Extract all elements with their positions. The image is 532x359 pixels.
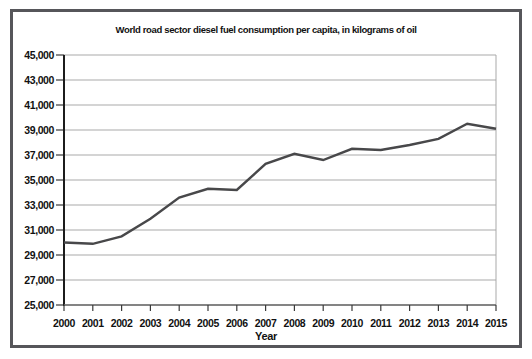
y-tick-label: 27,000 <box>24 274 54 286</box>
chart-canvas: World road sector diesel fuel consumptio… <box>0 0 532 359</box>
x-axis-title: Year <box>13 330 519 342</box>
y-tick-label: 25,000 <box>24 299 54 311</box>
x-tick-label: 2010 <box>341 317 363 329</box>
x-tick-label: 2006 <box>226 317 248 329</box>
x-tick-label: 2009 <box>312 317 334 329</box>
y-tick-label: 29,000 <box>24 249 54 261</box>
x-tick-label: 2011 <box>370 317 392 329</box>
line-chart: 25,00027,00029,00031,00033,00035,00037,0… <box>0 0 532 359</box>
x-tick-label: 2004 <box>168 317 190 329</box>
y-tick-label: 39,000 <box>24 124 54 136</box>
x-tick-label: 2013 <box>428 317 450 329</box>
x-tick-label: 2007 <box>255 317 277 329</box>
x-tick-label: 2002 <box>111 317 133 329</box>
y-tick-label: 37,000 <box>24 149 54 161</box>
y-tick-label: 31,000 <box>24 224 54 236</box>
x-tick-label: 2012 <box>399 317 421 329</box>
y-tick-label: 45,000 <box>24 49 54 61</box>
x-tick-label: 2005 <box>197 317 219 329</box>
x-tick-label: 2014 <box>456 317 478 329</box>
y-tick-label: 41,000 <box>24 99 54 111</box>
x-tick-label: 2008 <box>284 317 306 329</box>
y-tick-label: 35,000 <box>24 174 54 186</box>
y-tick-label: 43,000 <box>24 74 54 86</box>
x-tick-label: 2000 <box>53 317 75 329</box>
x-tick-label: 2015 <box>485 317 507 329</box>
x-tick-label: 2003 <box>140 317 162 329</box>
y-tick-label: 33,000 <box>24 199 54 211</box>
data-line <box>64 124 496 244</box>
x-tick-label: 2001 <box>82 317 104 329</box>
